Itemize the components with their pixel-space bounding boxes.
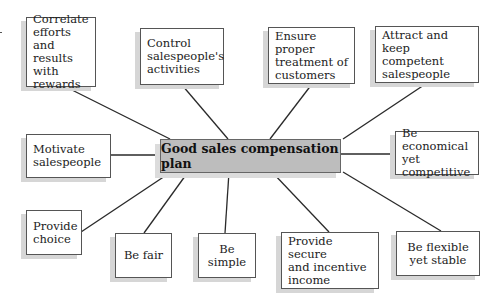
- node-label: Be simple: [202, 243, 252, 269]
- connector-ensure: [270, 84, 312, 139]
- node-label: Provide secure and incentive income: [288, 235, 372, 287]
- node-fair: Be fair: [115, 233, 172, 278]
- node-label: Control salespeople's activities: [147, 37, 224, 76]
- connector-flexible: [343, 172, 441, 231]
- connector-control: [182, 85, 228, 139]
- node-label: Be fair: [124, 249, 163, 262]
- connector-secure: [272, 172, 329, 232]
- connector-fair: [144, 172, 188, 233]
- connector-choice: [81, 172, 171, 232]
- node-choice: Provide choice: [26, 210, 82, 255]
- node-ensure: Ensure proper treatment of customers: [268, 27, 355, 84]
- node-economical: Be economical yet competitive: [395, 131, 479, 175]
- node-label: Attract and keep competent salespeople: [382, 29, 472, 81]
- node-label: Ensure proper treatment of customers: [275, 30, 348, 82]
- node-attract: Attract and keep competent salespeople: [375, 26, 479, 83]
- node-label: Be flexible yet stable: [407, 241, 468, 267]
- node-label: Motivate salespeople: [33, 143, 101, 169]
- node-flexible: Be flexible yet stable: [396, 231, 480, 276]
- node-label: Be economical yet competitive: [402, 127, 472, 179]
- connector-correlate: [64, 86, 170, 139]
- node-label: Correlate efforts and results with rewar…: [33, 13, 89, 91]
- node-control: Control salespeople's activities: [140, 28, 224, 85]
- central-concept: Good sales compensation plan: [160, 139, 341, 173]
- node-secure: Provide secure and incentive income: [281, 232, 379, 289]
- central-concept-label: Good sales compensation plan: [161, 141, 340, 171]
- node-correlate: Correlate efforts and results with rewar…: [26, 17, 96, 87]
- node-motivate: Motivate salespeople: [26, 134, 111, 178]
- connector-simple: [225, 172, 229, 233]
- node-simple: Be simple: [198, 233, 256, 278]
- node-label: Provide choice: [33, 220, 78, 246]
